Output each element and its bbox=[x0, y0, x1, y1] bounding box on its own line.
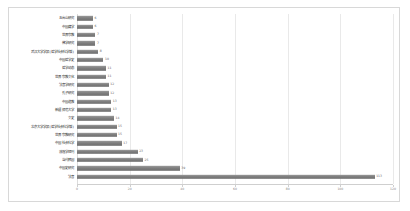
bar-row[interactable]: 五台山研究6 bbox=[9, 14, 401, 22]
x-tick-label: 20 bbox=[128, 188, 132, 191]
bar[interactable] bbox=[77, 175, 375, 179]
bar-row[interactable]: 法音113 bbox=[9, 173, 401, 181]
category-label: 五台山研究 bbox=[9, 16, 77, 20]
bar-rows: 五台山研究6中国藏学6世界宗教7佛学研究7武汉大学学报(哲学社会科学版)8中国哲… bbox=[9, 14, 401, 181]
bar[interactable] bbox=[77, 124, 117, 128]
bar-row[interactable]: 哲学动态11 bbox=[9, 64, 401, 72]
category-label: 中国道教 bbox=[9, 100, 77, 104]
bar-row[interactable]: 法音学研究12 bbox=[9, 81, 401, 89]
category-label: 中国史研究 bbox=[9, 166, 77, 170]
bar-container: 10 bbox=[77, 58, 109, 62]
bar-container: 11 bbox=[77, 74, 111, 78]
bar-value-label: 13 bbox=[113, 108, 117, 111]
bar-row[interactable]: 武汉大学学报(哲学社会科学版)8 bbox=[9, 47, 401, 55]
bar-row[interactable]: 中国史研究39 bbox=[9, 164, 401, 172]
bar-value-label: 25 bbox=[144, 158, 148, 161]
bar[interactable] bbox=[77, 108, 111, 112]
category-label: 北京大学学报(哲学社会科学版) bbox=[9, 125, 77, 129]
bar-container: 113 bbox=[77, 175, 382, 179]
bar-value-label: 11 bbox=[108, 67, 112, 70]
bar-container: 25 bbox=[77, 158, 148, 162]
bar-container: 13 bbox=[77, 108, 117, 112]
bar-row[interactable]: 中国藏学6 bbox=[9, 22, 401, 30]
bar-container: 14 bbox=[77, 116, 119, 120]
bar[interactable] bbox=[77, 133, 117, 137]
bar[interactable] bbox=[77, 99, 111, 103]
category-label: 法音学研究 bbox=[9, 83, 77, 87]
bar[interactable] bbox=[77, 166, 180, 170]
x-tick-label: 100 bbox=[337, 188, 343, 191]
bar-container: 17 bbox=[77, 141, 127, 145]
category-label: 中国藏学 bbox=[9, 25, 77, 29]
bar[interactable] bbox=[77, 58, 103, 62]
bar-row[interactable]: 中国道教13 bbox=[9, 97, 401, 105]
category-label: 中国社会科学 bbox=[9, 141, 77, 145]
bar[interactable] bbox=[77, 66, 106, 70]
bar-row[interactable]: 世界宗教7 bbox=[9, 31, 401, 39]
bar-container: 15 bbox=[77, 133, 122, 137]
bar-container: 6 bbox=[77, 16, 96, 20]
bar-value-label: 7 bbox=[97, 33, 99, 36]
category-label: 世界宗教文化 bbox=[9, 75, 77, 79]
bar[interactable] bbox=[77, 33, 95, 37]
category-label: 佛学研究 bbox=[9, 41, 77, 45]
category-label: 新疆师范大学 bbox=[9, 108, 77, 112]
bar-row[interactable]: 北京大学学报(哲学社会科学版)15 bbox=[9, 122, 401, 130]
category-label: 法音 bbox=[9, 175, 77, 179]
bar-value-label: 8 bbox=[100, 50, 102, 53]
bar[interactable] bbox=[77, 16, 93, 20]
bar-value-label: 39 bbox=[181, 167, 185, 170]
bar[interactable] bbox=[77, 141, 122, 145]
bar-value-label: 12 bbox=[110, 83, 114, 86]
category-label: 世界宗教研究 bbox=[9, 133, 77, 137]
bar-row[interactable]: 敦煌学辑刊23 bbox=[9, 148, 401, 156]
bar-value-label: 6 bbox=[94, 16, 96, 19]
bar[interactable] bbox=[77, 116, 114, 120]
bar-container: 7 bbox=[77, 33, 99, 37]
category-label: 敦煌学辑刊 bbox=[9, 150, 77, 154]
bar-row[interactable]: 当代韩国25 bbox=[9, 156, 401, 164]
bar-container: 11 bbox=[77, 66, 111, 70]
bar-container: 12 bbox=[77, 83, 114, 87]
category-label: 武汉大学学报(哲学社会科学版) bbox=[9, 50, 77, 54]
bar-row[interactable]: 文史14 bbox=[9, 114, 401, 122]
x-tick-label: 40 bbox=[180, 188, 184, 191]
bar-value-label: 12 bbox=[110, 92, 114, 95]
x-tick-label: 120 bbox=[390, 188, 396, 191]
bar[interactable] bbox=[77, 74, 106, 78]
bar-row[interactable]: 佛学研究7 bbox=[9, 39, 401, 47]
category-label: 中国哲学史 bbox=[9, 58, 77, 62]
bar-value-label: 17 bbox=[123, 142, 127, 145]
bar-value-label: 23 bbox=[139, 150, 143, 153]
bar[interactable] bbox=[77, 91, 109, 95]
category-label: 孔子研究 bbox=[9, 91, 77, 95]
bar[interactable] bbox=[77, 83, 109, 87]
bar-row[interactable]: 中国哲学史10 bbox=[9, 56, 401, 64]
category-label: 文史 bbox=[9, 116, 77, 120]
bar-value-label: 113 bbox=[376, 175, 382, 178]
bar[interactable] bbox=[77, 158, 143, 162]
bar-value-label: 13 bbox=[113, 100, 117, 103]
bar-value-label: 15 bbox=[118, 133, 122, 136]
bar-row[interactable]: 孔子研究12 bbox=[9, 89, 401, 97]
bar-row[interactable]: 新疆师范大学13 bbox=[9, 106, 401, 114]
bar-container: 7 bbox=[77, 41, 99, 45]
bar-value-label: 6 bbox=[94, 25, 96, 28]
bar[interactable] bbox=[77, 149, 138, 153]
bar[interactable] bbox=[77, 41, 95, 45]
bar[interactable] bbox=[77, 24, 93, 28]
bar-value-label: 10 bbox=[105, 58, 109, 61]
bar-row[interactable]: 世界宗教研究15 bbox=[9, 131, 401, 139]
bar-row[interactable]: 中国社会科学17 bbox=[9, 139, 401, 147]
bar-container: 13 bbox=[77, 99, 117, 103]
chart-frame: 五台山研究6中国藏学6世界宗教7佛学研究7武汉大学学报(哲学社会科学版)8中国哲… bbox=[8, 7, 400, 202]
bar-value-label: 7 bbox=[97, 41, 99, 44]
bar-container: 12 bbox=[77, 91, 114, 95]
category-label: 当代韩国 bbox=[9, 158, 77, 162]
plot-area: 五台山研究6中国藏学6世界宗教7佛学研究7武汉大学学报(哲学社会科学版)8中国哲… bbox=[9, 8, 401, 203]
chart-page: 五台山研究6中国藏学6世界宗教7佛学研究7武汉大学学报(哲学社会科学版)8中国哲… bbox=[0, 0, 410, 211]
bar[interactable] bbox=[77, 49, 98, 53]
bar-row[interactable]: 世界宗教文化11 bbox=[9, 72, 401, 80]
category-label: 哲学动态 bbox=[9, 66, 77, 70]
bar-value-label: 11 bbox=[108, 75, 112, 78]
